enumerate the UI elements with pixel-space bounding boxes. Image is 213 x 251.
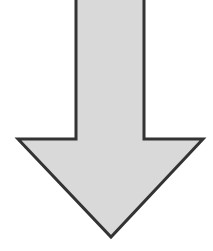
arrow-shape xyxy=(18,0,203,237)
arrow-down-icon xyxy=(0,0,213,251)
arrow-figure xyxy=(0,0,213,251)
